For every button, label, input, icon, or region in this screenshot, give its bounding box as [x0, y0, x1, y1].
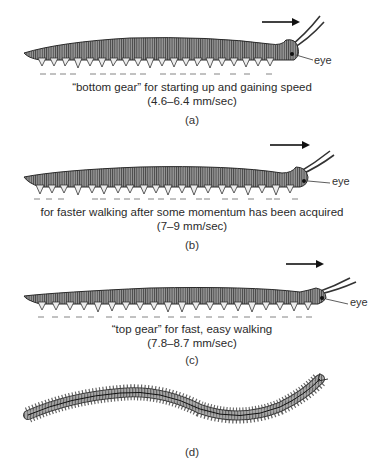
- panel-d: (d): [0, 365, 384, 473]
- worm-side-view-a: [0, 0, 384, 90]
- worm-dorsal-view-d: [0, 365, 384, 445]
- panel-c: eye “top gear” for fast, easy walking (7…: [0, 250, 384, 365]
- panel-b: eye for faster walking after some moment…: [0, 125, 384, 250]
- eye-label-c: eye: [350, 296, 368, 308]
- caption-c-line2: (7.8–8.7 mm/sec): [0, 336, 384, 350]
- eye-icon: [320, 296, 324, 300]
- panel-label-d: (d): [0, 446, 384, 458]
- caption-b-line2: (7–9 mm/sec): [0, 219, 384, 233]
- eye-icon: [302, 179, 306, 183]
- caption-a-line1: “bottom gear” for starting up and gainin…: [0, 80, 384, 94]
- worm-side-view-b: [0, 125, 384, 215]
- direction-arrow-icon: [270, 141, 310, 149]
- caption-b-line1: for faster walking after some momentum h…: [0, 205, 384, 219]
- direction-arrow-icon: [286, 260, 324, 268]
- eye-icon: [290, 52, 294, 56]
- panel-a: eye “bottom gear” for starting up and ga…: [0, 0, 384, 125]
- eye-label-a: eye: [314, 54, 332, 66]
- caption-c-line1: “top gear” for fast, easy walking: [0, 322, 384, 336]
- caption-a-line2: (4.6–6.4 mm/sec): [0, 94, 384, 108]
- direction-arrow-icon: [262, 18, 300, 26]
- eye-label-b: eye: [332, 175, 350, 187]
- worm-side-view-c: [0, 250, 384, 330]
